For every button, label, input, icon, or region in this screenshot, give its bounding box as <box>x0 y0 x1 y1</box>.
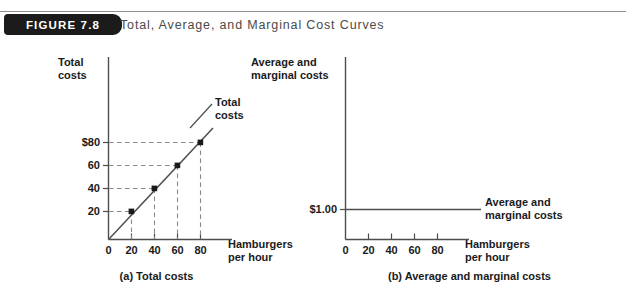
x-axis-title: Hamburgers per hour <box>228 238 314 263</box>
x-tick-label-0: 0 <box>98 244 119 256</box>
panel-a-caption: (a) Total costs <box>0 270 313 282</box>
panel-b-caption: (b) Average and marginal costs <box>313 270 626 282</box>
y-tick-label-20: 20 <box>62 205 100 217</box>
y-axis-title: Total costs <box>58 56 104 81</box>
average-marginal-costs-curve-label: Average and marginal costs <box>485 196 585 221</box>
y-tick-label-40: 40 <box>62 182 100 194</box>
y-axis-title: Average and marginal costs <box>251 56 343 81</box>
x-axis-title: Hamburgers per hour <box>465 238 551 263</box>
x-tick-label-80: 80 <box>190 244 211 256</box>
y-tick-marks <box>103 143 109 212</box>
total-costs-curve <box>109 128 213 239</box>
x-tick-marks <box>132 234 201 240</box>
x-tick-label-20: 20 <box>121 244 142 256</box>
y-tick-label-80: $80 <box>62 136 100 148</box>
x-tick-label-0: 0 <box>335 244 356 256</box>
x-tick-label-60: 60 <box>404 244 425 256</box>
y-tick-label-1-00: $1.00 <box>299 203 337 215</box>
x-tick-label-40: 40 <box>144 244 165 256</box>
x-tick-label-40: 40 <box>381 244 402 256</box>
x-tick-marks <box>369 234 438 240</box>
chart-panel-average-marginal-costs: Average and marginal costs $1.00 0 20 40… <box>313 0 626 298</box>
annotation-leader-line <box>190 104 212 128</box>
x-tick-label-20: 20 <box>358 244 379 256</box>
x-tick-label-80: 80 <box>427 244 448 256</box>
chart-panel-total-costs: Total costs $80 60 40 20 0 20 40 60 80 H… <box>0 0 313 298</box>
x-tick-label-60: 60 <box>167 244 188 256</box>
y-tick-label-60: 60 <box>62 159 100 171</box>
total-costs-curve-label: Total costs <box>215 96 275 121</box>
